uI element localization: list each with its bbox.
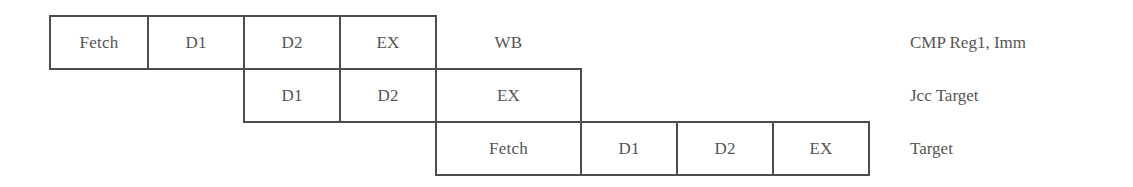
instruction-label-cmp: CMP Reg1, Imm	[910, 15, 1026, 70]
stage-cell-ex: EX	[772, 121, 870, 176]
stage-cell-ex: EX	[435, 68, 582, 123]
stage-cell-d2: D2	[243, 15, 341, 70]
pipeline-diagram: Fetch D1 D2 EX WB CMP Reg1, Imm D1 D2 EX…	[0, 0, 1133, 187]
stage-cell-d2: D2	[676, 121, 774, 176]
stage-cell-d1: D1	[147, 15, 245, 70]
instruction-label-jcc: Jcc Target	[910, 68, 979, 123]
stage-cell-d2: D2	[339, 68, 437, 123]
stage-cell-fetch: Fetch	[435, 121, 582, 176]
stage-cell-wb: WB	[437, 15, 580, 70]
instruction-label-target: Target	[910, 121, 953, 176]
stage-cell-fetch: Fetch	[49, 15, 149, 70]
stage-cell-ex: EX	[339, 15, 437, 70]
stage-cell-d1: D1	[580, 121, 678, 176]
stage-cell-d1: D1	[243, 68, 341, 123]
